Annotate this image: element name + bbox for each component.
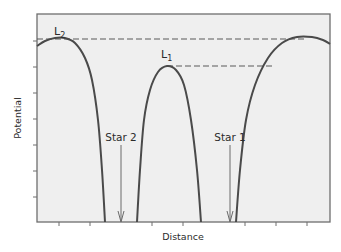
- x-axis-label: Distance: [162, 231, 204, 242]
- star-2-label: Star 2: [105, 131, 137, 143]
- potential-diagram: L2 L1 Star 2 Star 1 Distance Potential: [0, 0, 341, 252]
- y-axis-label: Potential: [12, 97, 23, 139]
- star-1-label: Star 1: [214, 131, 246, 143]
- plot-background: [37, 14, 330, 222]
